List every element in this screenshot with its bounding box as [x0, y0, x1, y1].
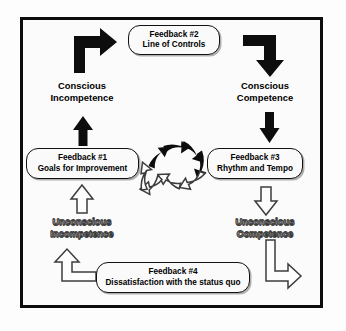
stage-uc-line2: Competence	[205, 228, 325, 240]
stage-cc-line1: Conscious	[205, 80, 325, 92]
feedback-box-1[interactable]: Feedback #1 Goals for Improvement	[26, 148, 139, 179]
stage-uc-line1: Unconscious	[205, 216, 325, 228]
stage-ui-line1: Unconscious	[22, 216, 142, 228]
feedback-box-2-subtitle: Line of Controls	[143, 40, 206, 50]
stage-label-unconscious-competence: Unconscious Competence	[205, 216, 325, 241]
stage-cc-line2: Competence	[205, 92, 325, 104]
feedback-box-4[interactable]: Feedback #4 Dissatisfaction with the sta…	[96, 262, 250, 293]
feedback-box-4-subtitle: Dissatisfaction with the status quo	[105, 278, 240, 288]
stage-label-conscious-competence: Conscious Competence	[205, 80, 325, 105]
feedback-box-4-title: Feedback #4	[148, 267, 197, 277]
feedback-box-2[interactable]: Feedback #2 Line of Controls	[128, 25, 220, 55]
feedback-box-3-subtitle: Rhythm and Tempo	[217, 164, 293, 174]
feedback-box-3[interactable]: Feedback #3 Rhythm and Tempo	[207, 148, 303, 179]
stage-ui-line2: Incompetence	[22, 228, 142, 240]
feedback-box-1-title: Feedback #1	[58, 153, 107, 163]
stage-label-unconscious-incompetence: Unconscious Incompetence	[22, 216, 142, 241]
stage-ci-line2: Incompetence	[22, 92, 142, 104]
feedback-box-1-subtitle: Goals for Improvement	[38, 164, 128, 174]
stage-ci-line1: Conscious	[22, 80, 142, 92]
feedback-box-2-title: Feedback #2	[149, 30, 198, 40]
conscious-competence-diagram: Feedback #2 Line of Controls Feedback #1…	[0, 0, 346, 331]
feedback-box-3-title: Feedback #3	[230, 153, 279, 163]
stage-label-conscious-incompetence: Conscious Incompetence	[22, 80, 142, 105]
